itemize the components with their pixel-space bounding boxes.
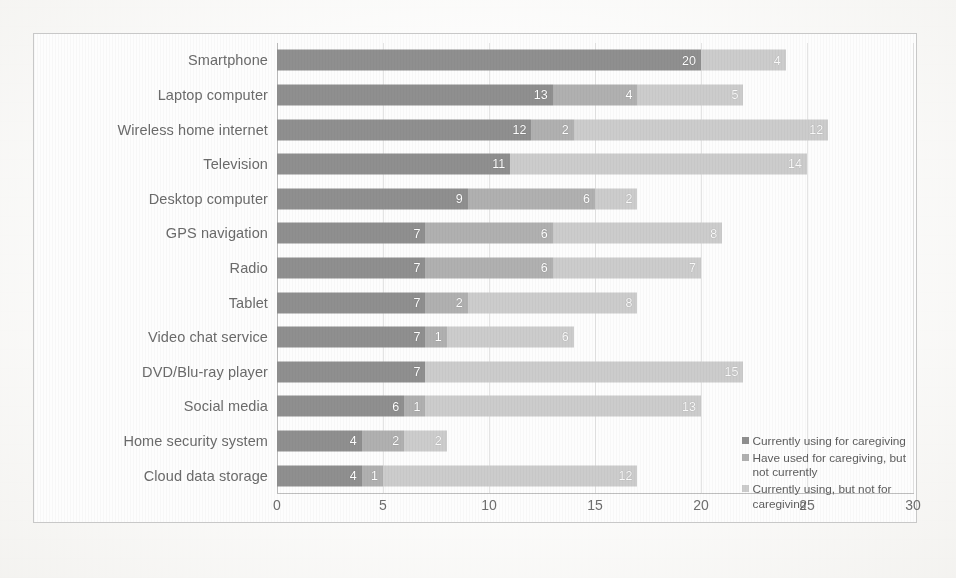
- x-tick-label-10: 10: [481, 497, 497, 513]
- bar-row: Radio767: [277, 251, 913, 286]
- stacked-bar: 4112: [277, 465, 637, 486]
- bar-value-label: 1: [435, 331, 447, 344]
- legend-swatch-icon: [742, 454, 749, 461]
- bar-row: GPS navigation768: [277, 216, 913, 251]
- bar-segment: 6: [425, 223, 552, 244]
- x-tick-label-15: 15: [587, 497, 603, 513]
- x-tick-label-20: 20: [693, 497, 709, 513]
- bar-segment: 1: [425, 327, 446, 348]
- category-label: Laptop computer: [158, 87, 268, 103]
- bar-segment: 4: [553, 84, 638, 105]
- bar-value-label: 6: [583, 193, 595, 206]
- bar-segment: 13: [277, 84, 553, 105]
- legend-swatch-icon: [742, 437, 749, 444]
- bar-segment: 5: [637, 84, 743, 105]
- bar-row: Video chat service716: [277, 320, 913, 355]
- bar-value-label: 6: [541, 262, 553, 275]
- stacked-bar: 204: [277, 50, 786, 71]
- bar-value-label: 1: [413, 400, 425, 413]
- stacked-bar: 12212: [277, 119, 828, 140]
- bar-row: Television1114: [277, 147, 913, 182]
- bar-value-label: 13: [534, 89, 553, 102]
- category-label: Radio: [230, 260, 268, 276]
- legend-item: Currently using, but not for caregiving: [742, 482, 914, 511]
- bar-value-label: 8: [625, 296, 637, 309]
- gridline-30: [913, 43, 914, 493]
- bar-row: Desktop computer962: [277, 181, 913, 216]
- stacked-bar: 716: [277, 327, 574, 348]
- stacked-bar: 962: [277, 188, 637, 209]
- bar-value-label: 7: [413, 331, 425, 344]
- category-label: Tablet: [229, 295, 268, 311]
- bar-segment: 2: [362, 431, 404, 452]
- bar-segment: 1: [362, 465, 383, 486]
- bar-value-label: 2: [456, 296, 468, 309]
- category-label: Television: [203, 156, 268, 172]
- bar-value-label: 13: [682, 400, 701, 413]
- bar-segment: 6: [425, 257, 552, 278]
- stacked-bar: 715: [277, 361, 743, 382]
- stacked-bar: 767: [277, 257, 701, 278]
- bar-value-label: 7: [413, 227, 425, 240]
- bar-segment: 12: [383, 465, 637, 486]
- bar-value-label: 4: [350, 469, 362, 482]
- bar-segment: 2: [531, 119, 573, 140]
- category-label: DVD/Blu-ray player: [142, 364, 268, 380]
- bar-value-label: 12: [618, 469, 637, 482]
- legend-label: Currently using, but not for caregiving: [753, 482, 915, 511]
- bar-segment: 15: [425, 361, 743, 382]
- bar-value-label: 4: [774, 54, 786, 67]
- bar-value-label: 6: [541, 227, 553, 240]
- bar-segment: 6: [277, 396, 404, 417]
- category-label: Video chat service: [148, 329, 268, 345]
- category-label: Home security system: [123, 433, 268, 449]
- chart-legend: Currently using for caregivingHave used …: [742, 434, 914, 513]
- bar-value-label: 2: [562, 123, 574, 136]
- bar-row: DVD/Blu-ray player715: [277, 355, 913, 390]
- legend-swatch-icon: [742, 485, 749, 492]
- bar-value-label: 7: [413, 296, 425, 309]
- category-label: Wireless home internet: [118, 122, 268, 138]
- bar-segment: 8: [468, 292, 638, 313]
- bar-segment: 8: [553, 223, 723, 244]
- plot-area: Smartphone204Laptop computer1345Wireless…: [277, 43, 913, 493]
- stacked-bar: 1114: [277, 154, 807, 175]
- bar-segment: 12: [574, 119, 828, 140]
- bar-segment: 20: [277, 50, 701, 71]
- bar-row: Wireless home internet12212: [277, 112, 913, 147]
- x-tick-label-0: 0: [273, 497, 281, 513]
- bar-value-label: 7: [413, 262, 425, 275]
- legend-label: Have used for caregiving, but not curren…: [753, 451, 915, 480]
- x-tick-label-5: 5: [379, 497, 387, 513]
- bar-value-label: 2: [435, 435, 447, 448]
- bar-segment: 7: [277, 223, 425, 244]
- bar-segment: 7: [277, 361, 425, 382]
- bar-segment: 13: [425, 396, 701, 417]
- bar-segment: 7: [277, 327, 425, 348]
- bar-segment: 9: [277, 188, 468, 209]
- bar-segment: 2: [595, 188, 637, 209]
- bar-value-label: 2: [625, 193, 637, 206]
- bar-segment: 4: [277, 465, 362, 486]
- bar-value-label: 11: [492, 158, 510, 171]
- bar-segment: 4: [701, 50, 786, 71]
- bar-value-label: 4: [625, 89, 637, 102]
- category-label: Social media: [184, 398, 268, 414]
- bar-segment: 7: [553, 257, 701, 278]
- category-label: Smartphone: [188, 52, 268, 68]
- bar-value-label: 6: [392, 400, 404, 413]
- chart-frame: Smartphone204Laptop computer1345Wireless…: [33, 33, 917, 523]
- bar-row: Smartphone204: [277, 43, 913, 78]
- bar-value-label: 20: [682, 54, 701, 67]
- bar-value-label: 9: [456, 193, 468, 206]
- bar-segment: 1: [404, 396, 425, 417]
- bar-value-label: 14: [788, 158, 807, 171]
- bar-segment: 14: [510, 154, 807, 175]
- category-label: Desktop computer: [149, 191, 268, 207]
- stacked-bar: 1345: [277, 84, 743, 105]
- bar-row: Tablet728: [277, 285, 913, 320]
- bar-segment: 2: [425, 292, 467, 313]
- bar-segment: 6: [447, 327, 574, 348]
- bar-value-label: 6: [562, 331, 574, 344]
- bar-row: Laptop computer1345: [277, 78, 913, 113]
